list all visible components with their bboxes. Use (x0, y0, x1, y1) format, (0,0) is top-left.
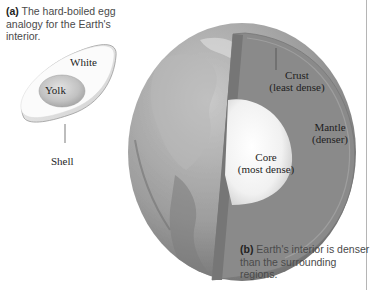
label-mantle: Mantle (denser) (300, 121, 360, 145)
core-note: (most dense) (226, 163, 306, 175)
panel-b-letter: (b) (240, 243, 253, 255)
earth-egg-analogy-figure: (a) The hard-boiled egg analogy for the … (0, 0, 373, 303)
caption-panel-a: (a) The hard-boiled egg analogy for the … (6, 5, 141, 43)
mantle-name: Mantle (300, 121, 360, 133)
crust-note: (least dense) (262, 81, 332, 93)
panel-a-letter: (a) (6, 5, 19, 17)
egg-illustration (21, 45, 116, 143)
core-name: Core (226, 151, 306, 163)
mantle-note: (denser) (300, 133, 360, 145)
label-crust: Crust (least dense) (262, 69, 332, 93)
label-white: White (70, 56, 97, 68)
caption-panel-b: (b) Earth's interior is denser than the … (240, 243, 370, 281)
panel-b-caption-text: Earth's interior is denser than the surr… (240, 243, 369, 280)
label-yolk: Yolk (45, 84, 66, 96)
label-shell: Shell (51, 155, 74, 167)
panel-a-caption-text: The hard-boiled egg analogy for the Eart… (6, 5, 116, 42)
crust-name: Crust (262, 69, 332, 81)
label-core: Core (most dense) (226, 151, 306, 175)
